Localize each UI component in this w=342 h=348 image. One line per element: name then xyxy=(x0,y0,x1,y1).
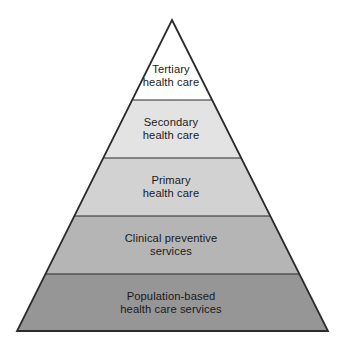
pyramid-diagram: Tertiary health care Secondary health ca… xyxy=(0,0,342,348)
pyramid-band-secondary xyxy=(0,100,342,158)
pyramid-band-population-based xyxy=(0,274,342,334)
pyramid-band-clinical-preventive xyxy=(0,216,342,274)
pyramid-bands xyxy=(0,0,342,334)
pyramid-band-tertiary xyxy=(0,0,342,100)
pyramid-graphic xyxy=(0,0,342,348)
pyramid-band-primary xyxy=(0,158,342,216)
